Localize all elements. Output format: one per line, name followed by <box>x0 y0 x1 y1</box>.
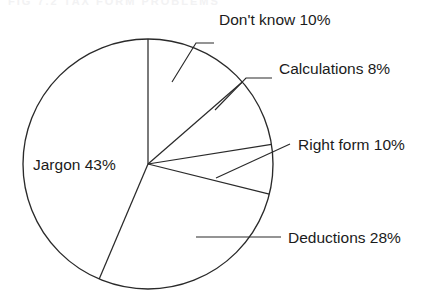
slice-label-dontknow: Don't know 10% <box>219 11 331 28</box>
pie-chart-svg: Don't know 10% Calculations 8% Right for… <box>0 0 441 305</box>
figure-caption-clipped: FIG 7.2 TAX FORM PROBLEMS <box>0 0 441 7</box>
slice-label-deductions: Deductions 28% <box>288 229 401 246</box>
slice-label-calculations: Calculations 8% <box>279 60 390 77</box>
slice-label-rightform: Right form 10% <box>298 136 405 153</box>
figure-caption-text: FIG 7.2 TAX FORM PROBLEMS <box>8 0 220 7</box>
pie-chart-figure: FIG 7.2 TAX FORM PROBLEMS Don't know 10%… <box>0 0 441 305</box>
slice-label-jargon: Jargon 43% <box>33 156 116 173</box>
